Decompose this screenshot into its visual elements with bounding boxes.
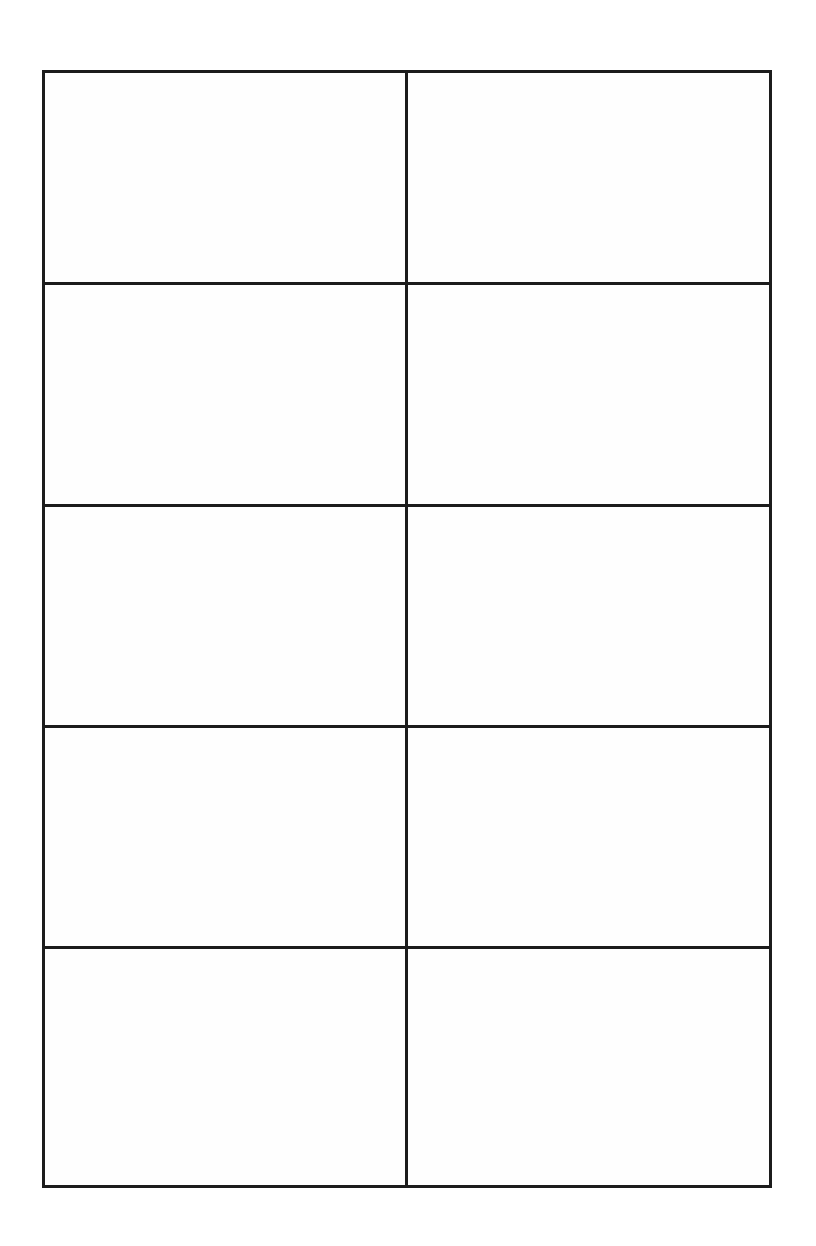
table-cell-r3-c1 <box>45 507 408 728</box>
table-cell-r1-c1 <box>45 73 408 285</box>
table-cell-r2-c1 <box>45 285 408 507</box>
table-cell-r5-c1 <box>45 949 408 1185</box>
document-page <box>0 0 816 1246</box>
table-cell-r2-c2 <box>408 285 769 507</box>
table-cell-r4-c1 <box>45 728 408 949</box>
table-cell-r4-c2 <box>408 728 769 949</box>
table-cell-r1-c2 <box>408 73 769 285</box>
table-cell-r5-c2 <box>408 949 769 1185</box>
table-cell-r3-c2 <box>408 507 769 728</box>
blank-table <box>42 70 772 1188</box>
